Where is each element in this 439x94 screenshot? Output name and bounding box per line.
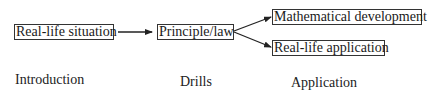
node-real-life-situation: Real-life situation — [14, 24, 114, 40]
node-label: Mathematical development — [274, 10, 427, 24]
node-label: Real-life application — [274, 41, 389, 55]
stage-label-introduction: Introduction — [15, 72, 84, 88]
teaching-flow-diagram: Real-life situation Principle/law Mathem… — [0, 0, 439, 94]
node-label: Principle/law — [159, 25, 234, 39]
stage-label-application: Application — [291, 75, 357, 91]
stage-label-drills: Drills — [180, 74, 212, 90]
node-real-life-application: Real-life application — [272, 40, 385, 56]
node-principle-law: Principle/law — [157, 24, 234, 40]
arrow-principle-to-math-development — [234, 17, 271, 31]
node-label: Real-life situation — [16, 25, 117, 39]
node-mathematical-development: Mathematical development — [272, 9, 422, 25]
arrow-principle-to-real-life-application — [234, 32, 271, 47]
